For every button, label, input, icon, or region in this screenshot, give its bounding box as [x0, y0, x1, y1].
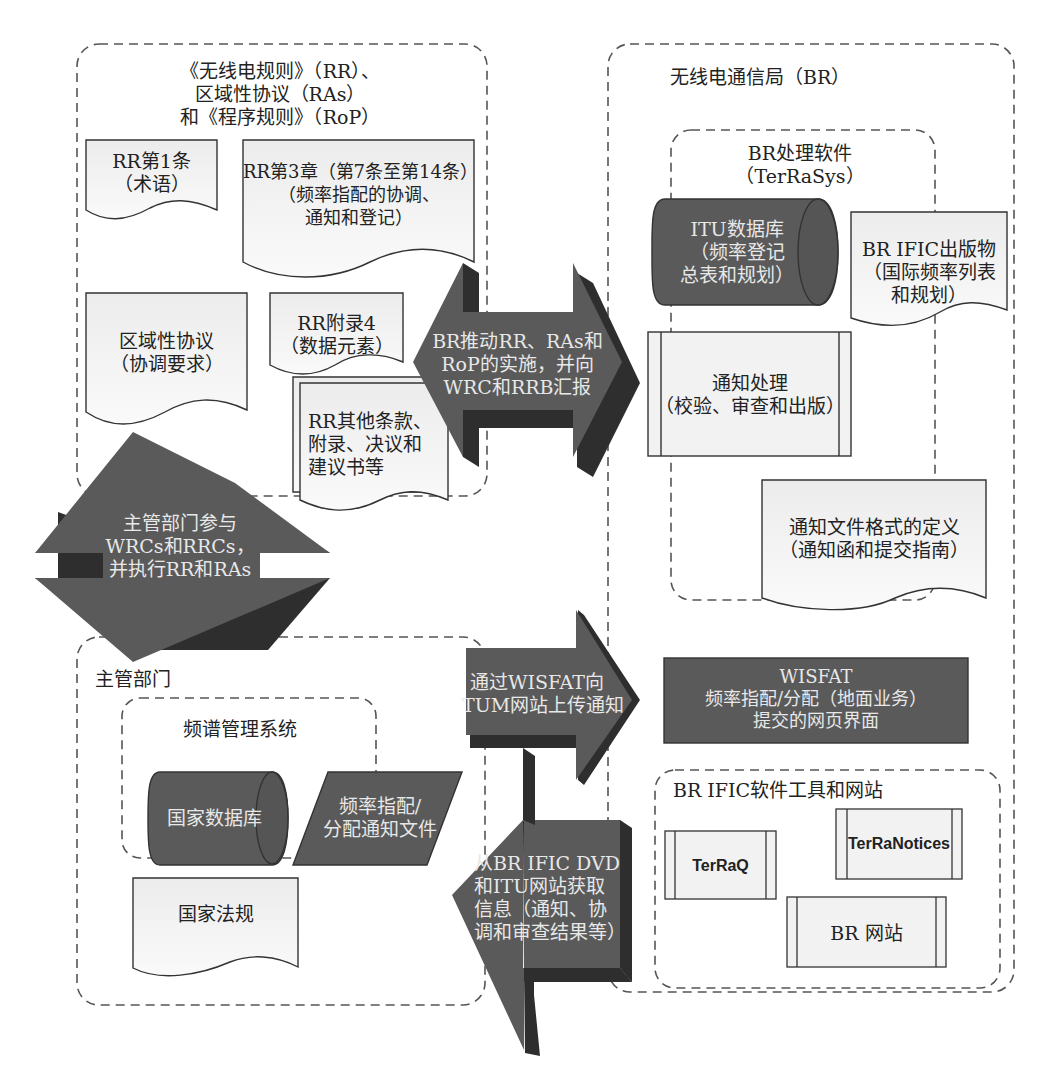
- software-title-line1: BR处理软件: [700, 142, 900, 165]
- ific-pub-line3: 和规划）: [851, 284, 1007, 307]
- wisfat-line1: WISFAT: [664, 666, 968, 688]
- ific-fetch-line3: 信息（通知、协: [474, 898, 634, 921]
- notice-format-line1: 通知文件格式的定义: [762, 516, 986, 539]
- notice-file[interactable]: 频率指配/ 分配通知文件: [305, 795, 455, 841]
- admin-participate-line2: WRCs和RRCs，: [95, 535, 265, 558]
- doc-ra-line2: （协调要求）: [86, 353, 247, 376]
- br-group-title: 无线电通信局（BR）: [670, 66, 850, 89]
- rr-title-line2: 区域性协议（RAs）: [110, 83, 450, 106]
- admin-group-title: 主管部门: [95, 668, 171, 691]
- doc-art1-line2: （术语）: [86, 173, 217, 196]
- notice-file-line2: 分配通知文件: [305, 818, 455, 841]
- ific-pub-line2: （国际频率列表: [851, 261, 1007, 284]
- notice-file-line1: 频率指配/: [305, 795, 455, 818]
- doc-art1[interactable]: RR第1条 （术语）: [86, 150, 217, 196]
- software-title-line2: （TerRaSys）: [700, 165, 900, 188]
- notice-format[interactable]: 通知文件格式的定义 （通知函和提交指南）: [762, 516, 986, 562]
- itu-db-line2: （频率登记: [652, 241, 822, 264]
- itu-db[interactable]: ITU数据库 （频率登记 总表和规划）: [652, 218, 822, 287]
- tools-group-title: BR IFIC软件工具和网站: [673, 779, 883, 802]
- doc-ap4[interactable]: RR附录4 （数据元素）: [270, 312, 403, 358]
- wisfat-upload-line1: 通过WISFAT向: [462, 671, 612, 694]
- arrow-wisfat-upload-label: 通过WISFAT向 TUM网站上传通知: [462, 671, 612, 717]
- doc-ra[interactable]: 区域性协议 （协调要求）: [86, 330, 247, 376]
- arrow-ific-fetch-label: 从BR IFIC DVD 和ITU网站获取 信息（通知、协 调和审查结果等）: [474, 852, 634, 944]
- admin-participate-line1: 主管部门参与: [95, 512, 265, 535]
- ific-pub[interactable]: BR IFIC出版物 （国际频率列表 和规划）: [851, 238, 1007, 307]
- wisfat-upload-line2: TUM网站上传通知: [462, 694, 612, 717]
- terraq[interactable]: TerRaQ: [665, 854, 776, 877]
- rr-title-line3: 和《程序规则》（RoP）: [110, 106, 450, 129]
- doc-ap4-line1: RR附录4: [270, 312, 403, 335]
- br-website[interactable]: BR 网站: [787, 922, 946, 945]
- br-impl-line2: RoP的实施，并向: [430, 353, 605, 376]
- admin-participate-line3: 并执行RR和RAs: [95, 558, 265, 581]
- rr-title-line1: 《无线电规则》（RR）、: [110, 60, 450, 83]
- national-db[interactable]: 国家数据库: [148, 807, 280, 830]
- doc-ch3-line3: 通知和登记）: [243, 206, 474, 229]
- notice-format-line2: （通知函和提交指南）: [762, 539, 986, 562]
- national-law-shape: [133, 878, 298, 976]
- itu-db-line1: ITU数据库: [652, 218, 822, 241]
- doc-ch3-line2: （频率指配的协调、: [243, 183, 474, 206]
- ific-fetch-line1: 从BR IFIC DVD: [474, 852, 634, 875]
- doc-art1-line1: RR第1条: [86, 150, 217, 173]
- doc-ra-line1: 区域性协议: [86, 330, 247, 353]
- national-law[interactable]: 国家法规: [133, 903, 298, 926]
- wisfat-line2: 频率指配/分配（地面业务）: [664, 688, 968, 710]
- br-impl-line1: BR推动RR、RAs和: [430, 330, 605, 353]
- doc-ch3[interactable]: RR第3章（第7条至第14条） （频率指配的协调、 通知和登记）: [243, 160, 474, 229]
- sms-group-title: 频谱管理系统: [150, 718, 330, 741]
- doc-ch3-line1: RR第3章（第7条至第14条）: [243, 160, 474, 183]
- doc-other-line2: 附录、决议和: [308, 433, 438, 456]
- doc-ap4-line2: （数据元素）: [270, 335, 403, 358]
- doc-other[interactable]: RR其他条款、 附录、决议和 建议书等: [308, 410, 438, 479]
- wisfat-line3: 提交的网页界面: [664, 710, 968, 732]
- arrow-admin-participate-label: 主管部门参与 WRCs和RRCs， 并执行RR和RAs: [95, 512, 265, 581]
- notice-processing[interactable]: 通知处理 （校验、审查和出版）: [648, 372, 851, 418]
- ific-fetch-line2: 和ITU网站获取: [474, 875, 634, 898]
- itu-db-line3: 总表和规划）: [652, 264, 822, 287]
- rr-group-title: 《无线电规则》（RR）、 区域性协议（RAs） 和《程序规则》（RoP）: [110, 60, 450, 129]
- terranotices[interactable]: TerRaNotices: [836, 832, 962, 855]
- doc-other-line1: RR其他条款、: [308, 410, 438, 433]
- ific-pub-line1: BR IFIC出版物: [851, 238, 1007, 261]
- br-impl-line3: WRC和RRB汇报: [430, 376, 605, 399]
- doc-other-line3: 建议书等: [308, 456, 438, 479]
- arrow-br-impl-label: BR推动RR、RAs和 RoP的实施，并向 WRC和RRB汇报: [430, 330, 605, 399]
- notice-processing-line1: 通知处理: [648, 372, 851, 395]
- ific-fetch-line4: 调和审查结果等）: [474, 921, 634, 944]
- software-group-title: BR处理软件 （TerRaSys）: [700, 142, 900, 188]
- notice-processing-line2: （校验、审查和出版）: [648, 395, 851, 418]
- wisfat[interactable]: WISFAT 频率指配/分配（地面业务） 提交的网页界面: [664, 666, 968, 732]
